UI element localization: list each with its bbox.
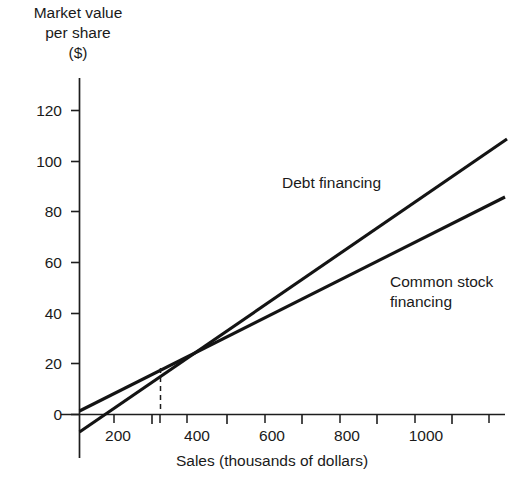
x-axis-title: Sales (thousands of dollars): [176, 452, 368, 469]
x-tick-label-1000: 1000: [409, 427, 444, 444]
y-axis-title-line-1: Market value: [34, 4, 123, 21]
y-axis-tick-labels: 120 100 80 60 40 20 0: [36, 102, 62, 423]
y-tick-label-0: 0: [53, 406, 62, 423]
y-tick-label-20: 20: [45, 355, 63, 372]
chart-container: Market value per share ($) 120 100 80 60…: [0, 0, 532, 479]
y-tick-label-60: 60: [45, 254, 63, 271]
financing-indifference-chart: Market value per share ($) 120 100 80 60…: [0, 0, 532, 479]
y-axis-title-line-2: per share: [45, 24, 110, 41]
y-axis-ticks: [71, 111, 80, 415]
series-label-common-stock-financing-line-1: Common stock: [390, 273, 494, 290]
series-label-common-stock-financing-line-2: financing: [390, 293, 452, 310]
y-tick-label-120: 120: [36, 102, 62, 119]
x-tick-label-600: 600: [259, 427, 285, 444]
y-axis-title-line-3: ($): [69, 44, 88, 61]
y-tick-label-80: 80: [45, 203, 63, 220]
series-label-debt-financing: Debt financing: [282, 174, 381, 191]
y-tick-label-40: 40: [45, 305, 63, 322]
x-axis-tick-labels: 200 400 600 800 1000: [105, 427, 444, 444]
x-tick-label-200: 200: [105, 427, 131, 444]
x-axis-ticks: [114, 415, 489, 425]
x-tick-label-400: 400: [184, 427, 210, 444]
x-tick-label-800: 800: [334, 427, 360, 444]
y-tick-label-100: 100: [36, 153, 62, 170]
